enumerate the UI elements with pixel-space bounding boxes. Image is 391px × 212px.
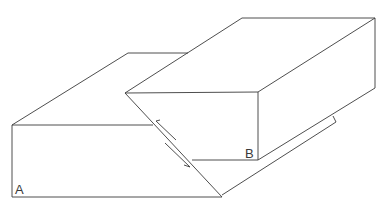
hanging-wall-block-b bbox=[125, 18, 375, 160]
label-b: B bbox=[245, 146, 254, 161]
slip-arrows bbox=[156, 120, 190, 167]
fault-plane bbox=[222, 116, 336, 195]
footwall-block-a bbox=[12, 53, 222, 197]
label-a: A bbox=[15, 182, 24, 197]
fault-diagram: A B bbox=[0, 0, 391, 212]
down-arrow-icon bbox=[165, 143, 190, 167]
